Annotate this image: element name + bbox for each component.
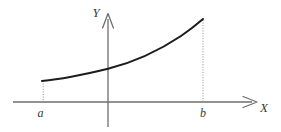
y-axis-label: Y <box>92 5 101 20</box>
x-axis-label: X <box>259 100 269 115</box>
marker-label-a: a <box>38 106 44 120</box>
marker-label-b: b <box>200 106 206 120</box>
plot-canvas: a b X Y <box>0 0 281 132</box>
function-curve <box>42 19 203 81</box>
function-plot-figure: a b X Y <box>0 0 281 132</box>
